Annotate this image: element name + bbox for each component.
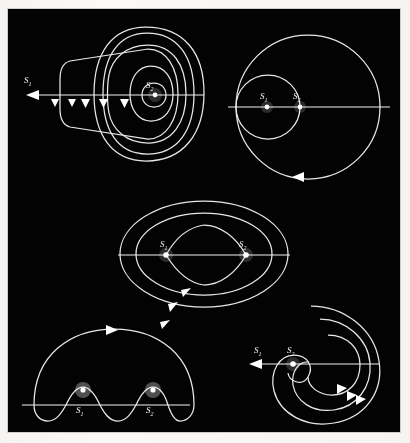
- source-point-s2: [153, 93, 158, 98]
- source-point-s2: [150, 387, 155, 392]
- plate-background: [8, 9, 400, 432]
- source-point-s2: [298, 105, 303, 110]
- source-point-s2: [243, 252, 249, 258]
- source-point-s1: [265, 105, 270, 110]
- source-point-s1: [80, 387, 85, 392]
- figure-plate: S1 S2 S1 S2: [8, 9, 400, 432]
- source-point-s1: [163, 252, 169, 258]
- scanned-page: S1 S2 S1 S2: [0, 0, 410, 443]
- figure-caption: [0, 431, 410, 443]
- source-point-s2: [290, 361, 296, 367]
